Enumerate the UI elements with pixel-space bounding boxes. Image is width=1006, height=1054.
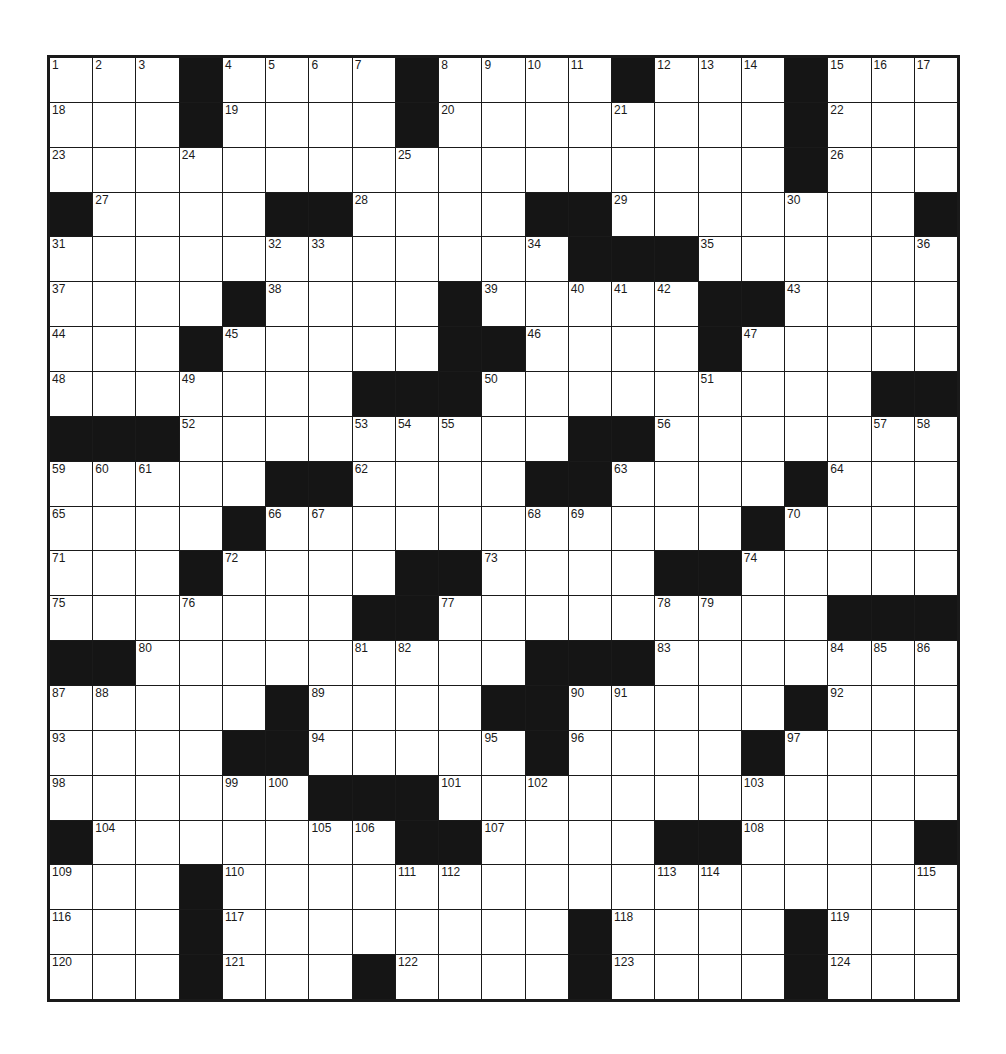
grid-cell[interactable]	[396, 237, 438, 281]
grid-cell[interactable]	[699, 686, 741, 730]
grid-cell[interactable]: 82	[396, 641, 438, 685]
grid-cell[interactable]	[655, 686, 697, 730]
grid-cell[interactable]	[872, 462, 914, 506]
grid-cell[interactable]	[136, 776, 178, 820]
grid-cell[interactable]: 36	[915, 237, 957, 281]
grid-cell[interactable]	[396, 910, 438, 954]
grid-cell[interactable]	[180, 686, 222, 730]
grid-cell[interactable]: 27	[93, 193, 135, 237]
grid-cell[interactable]	[439, 507, 481, 551]
grid-cell[interactable]	[915, 103, 957, 147]
grid-cell[interactable]: 106	[353, 821, 395, 865]
grid-cell[interactable]: 66	[266, 507, 308, 551]
grid-cell[interactable]	[828, 776, 870, 820]
grid-cell[interactable]	[742, 237, 784, 281]
grid-cell[interactable]: 18	[50, 103, 92, 147]
grid-cell[interactable]	[828, 372, 870, 416]
grid-cell[interactable]	[742, 865, 784, 909]
grid-cell[interactable]	[482, 776, 524, 820]
grid-cell[interactable]	[223, 596, 265, 640]
grid-cell[interactable]: 90	[569, 686, 611, 730]
grid-cell[interactable]	[872, 193, 914, 237]
grid-cell[interactable]	[93, 237, 135, 281]
grid-cell[interactable]	[655, 507, 697, 551]
grid-cell[interactable]	[526, 910, 568, 954]
grid-cell[interactable]	[655, 776, 697, 820]
grid-cell[interactable]	[439, 148, 481, 192]
grid-cell[interactable]	[828, 865, 870, 909]
grid-cell[interactable]	[872, 731, 914, 775]
grid-cell[interactable]	[309, 148, 351, 192]
grid-cell[interactable]	[136, 507, 178, 551]
grid-cell[interactable]: 26	[828, 148, 870, 192]
grid-cell[interactable]: 22	[828, 103, 870, 147]
grid-cell[interactable]: 113	[655, 865, 697, 909]
grid-cell[interactable]	[136, 596, 178, 640]
grid-cell[interactable]	[828, 507, 870, 551]
grid-cell[interactable]	[266, 865, 308, 909]
grid-cell[interactable]: 124	[828, 955, 870, 999]
grid-cell[interactable]: 17	[915, 58, 957, 102]
grid-cell[interactable]	[828, 821, 870, 865]
grid-cell[interactable]	[872, 821, 914, 865]
grid-cell[interactable]	[742, 193, 784, 237]
grid-cell[interactable]	[93, 551, 135, 595]
grid-cell[interactable]	[915, 148, 957, 192]
grid-cell[interactable]	[699, 776, 741, 820]
grid-cell[interactable]: 50	[482, 372, 524, 416]
grid-cell[interactable]	[93, 910, 135, 954]
grid-cell[interactable]	[872, 327, 914, 371]
grid-cell[interactable]	[309, 910, 351, 954]
grid-cell[interactable]	[439, 955, 481, 999]
grid-cell[interactable]: 46	[526, 327, 568, 371]
grid-cell[interactable]	[742, 910, 784, 954]
grid-cell[interactable]: 111	[396, 865, 438, 909]
grid-cell[interactable]	[699, 193, 741, 237]
grid-cell[interactable]	[569, 865, 611, 909]
grid-cell[interactable]	[785, 776, 827, 820]
grid-cell[interactable]: 88	[93, 686, 135, 730]
grid-cell[interactable]	[785, 641, 827, 685]
grid-cell[interactable]	[482, 955, 524, 999]
grid-cell[interactable]	[612, 372, 654, 416]
grid-cell[interactable]: 19	[223, 103, 265, 147]
grid-cell[interactable]	[569, 148, 611, 192]
grid-cell[interactable]	[872, 148, 914, 192]
grid-cell[interactable]	[482, 103, 524, 147]
grid-cell[interactable]: 112	[439, 865, 481, 909]
grid-cell[interactable]	[699, 731, 741, 775]
grid-cell[interactable]	[915, 776, 957, 820]
grid-cell[interactable]: 68	[526, 507, 568, 551]
grid-cell[interactable]	[309, 641, 351, 685]
grid-cell[interactable]	[526, 372, 568, 416]
grid-cell[interactable]	[266, 417, 308, 461]
grid-cell[interactable]	[93, 776, 135, 820]
grid-cell[interactable]	[742, 641, 784, 685]
grid-cell[interactable]: 67	[309, 507, 351, 551]
grid-cell[interactable]: 8	[439, 58, 481, 102]
grid-cell[interactable]	[309, 103, 351, 147]
grid-cell[interactable]: 14	[742, 58, 784, 102]
grid-cell[interactable]: 3	[136, 58, 178, 102]
grid-cell[interactable]: 60	[93, 462, 135, 506]
grid-cell[interactable]	[482, 193, 524, 237]
grid-cell[interactable]: 28	[353, 193, 395, 237]
grid-cell[interactable]	[93, 327, 135, 371]
grid-cell[interactable]	[526, 596, 568, 640]
grid-cell[interactable]	[266, 955, 308, 999]
grid-cell[interactable]	[526, 148, 568, 192]
grid-cell[interactable]	[439, 686, 481, 730]
grid-cell[interactable]: 1	[50, 58, 92, 102]
grid-cell[interactable]	[396, 686, 438, 730]
grid-cell[interactable]: 49	[180, 372, 222, 416]
grid-cell[interactable]: 4	[223, 58, 265, 102]
grid-cell[interactable]	[223, 237, 265, 281]
grid-cell[interactable]: 35	[699, 237, 741, 281]
grid-cell[interactable]: 53	[353, 417, 395, 461]
grid-cell[interactable]	[785, 417, 827, 461]
grid-cell[interactable]	[828, 237, 870, 281]
grid-cell[interactable]: 123	[612, 955, 654, 999]
grid-cell[interactable]	[223, 462, 265, 506]
grid-cell[interactable]: 41	[612, 282, 654, 326]
grid-cell[interactable]	[223, 641, 265, 685]
